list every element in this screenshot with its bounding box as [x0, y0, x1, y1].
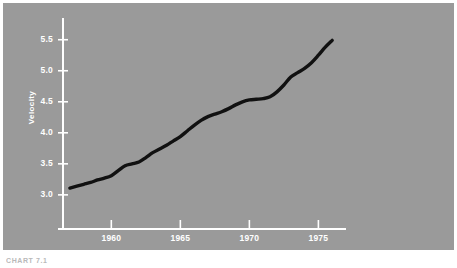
figure-caption: CHART 7.1 — [6, 257, 48, 268]
y-tick-label: 3.5 — [27, 158, 53, 168]
x-tick-label: 1970 — [231, 233, 267, 243]
y-tick-label: 5.0 — [27, 65, 53, 75]
x-tick-marks — [111, 220, 318, 229]
y-tick-label: 4.0 — [27, 127, 53, 137]
figure-root: Velocity 3.03.54.04.55.05.5 196019651970… — [0, 0, 457, 268]
x-tick-label: 1960 — [93, 233, 129, 243]
chart-panel: Velocity 3.03.54.04.55.05.5 196019651970… — [3, 3, 454, 250]
y-tick-label: 4.5 — [27, 96, 53, 106]
axes-group — [58, 18, 346, 229]
velocity-data-line — [70, 40, 332, 188]
line-chart-plot — [3, 3, 454, 250]
y-tick-label: 3.0 — [27, 189, 53, 199]
y-tick-label: 5.5 — [27, 34, 53, 44]
x-tick-label: 1975 — [300, 233, 336, 243]
x-tick-label: 1965 — [162, 233, 198, 243]
